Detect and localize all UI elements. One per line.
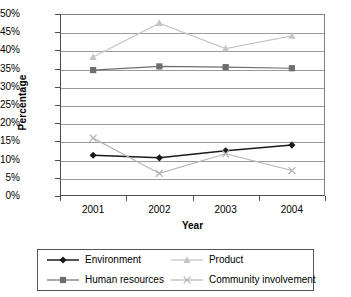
y-tick-mark [55, 123, 60, 124]
gridline [61, 142, 324, 143]
y-tick-label: 20% [0, 118, 20, 128]
y-tick-label: 40% [0, 45, 20, 55]
chart-legend: EnvironmentProductHuman resourcesCommuni… [37, 249, 314, 291]
gridline [61, 33, 324, 34]
gridline [61, 70, 324, 71]
y-tick-label: 5% [0, 173, 20, 183]
y-tick-mark [55, 14, 60, 15]
x-axis-title: Year [60, 220, 325, 231]
legend-label: Human resources [85, 274, 164, 286]
y-tick-label: 30% [0, 82, 20, 92]
gridline [61, 106, 324, 107]
plot-area [60, 14, 325, 196]
x-tick-mark [259, 196, 260, 201]
legend-item-product[interactable]: Product [164, 254, 316, 266]
legend-label: Community involvement [209, 274, 316, 286]
gridline [61, 51, 324, 52]
y-tick-label: 15% [0, 136, 20, 146]
y-tick-mark [55, 50, 60, 51]
x-tick-label: 2001 [63, 204, 123, 215]
gridline [61, 124, 324, 125]
y-tick-label: 10% [0, 155, 20, 165]
legend-item-environment[interactable]: Environment [40, 254, 164, 266]
x-tick-label: 2002 [129, 204, 189, 215]
legend-marker-diamond-icon [46, 254, 80, 266]
chart-container: Percentage 0%5%10%15%20%25%30%35%40%45%5… [0, 0, 351, 297]
y-tick-mark [55, 32, 60, 33]
legend-label: Environment [85, 254, 141, 266]
y-tick-mark [55, 178, 60, 179]
legend-item-community-involvement[interactable]: Community involvement [164, 274, 316, 286]
gridline [61, 88, 324, 89]
data-point-diamond [59, 256, 66, 263]
y-tick-mark [55, 69, 60, 70]
x-tick-mark [193, 196, 194, 201]
x-tick-mark [325, 196, 326, 201]
legend-marker-square-icon [46, 274, 80, 286]
data-point-square [60, 277, 66, 283]
y-tick-label: 25% [0, 100, 20, 110]
y-tick-mark [55, 141, 60, 142]
legend-item-human-resources[interactable]: Human resources [40, 274, 164, 286]
legend-marker-triangle-icon [170, 254, 204, 266]
legend-label: Product [209, 254, 243, 266]
x-tick-label: 2004 [262, 204, 322, 215]
gridline [61, 179, 324, 180]
y-tick-label: 35% [0, 64, 20, 74]
y-tick-mark [55, 105, 60, 106]
x-tick-mark [60, 196, 61, 201]
y-tick-label: 50% [0, 9, 20, 19]
legend-marker-cross-icon [170, 274, 204, 286]
x-tick-label: 2003 [196, 204, 256, 215]
y-tick-label: 0% [0, 191, 20, 201]
y-tick-mark [55, 160, 60, 161]
y-tick-mark [55, 87, 60, 88]
gridline [61, 161, 324, 162]
x-tick-mark [126, 196, 127, 201]
y-tick-label: 45% [0, 27, 20, 37]
